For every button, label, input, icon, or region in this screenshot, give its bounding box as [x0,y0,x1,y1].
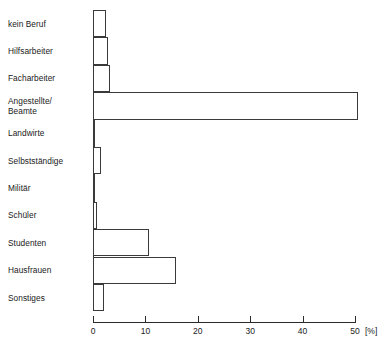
x-tick-label-20: 20 [193,326,202,336]
x-axis-unit-label: [%] [365,326,377,336]
x-tick-10 [145,316,146,323]
x-axis-line [93,322,355,323]
category-label-landwirte: Landwirte [8,120,88,147]
bar-hausfrauen [93,257,176,284]
x-tick-label-30: 30 [245,326,254,336]
x-tick-50 [355,316,356,323]
bar-militaer [93,174,95,201]
x-tick-label-50: 50 [350,326,359,336]
x-tick-0 [93,316,94,323]
x-tick-label-40: 40 [298,326,307,336]
bar-landwirte [93,120,95,147]
x-tick-label-0: 0 [91,326,96,336]
plot-area [93,10,378,311]
bar-chart: kein Beruf Hilfsarbeiter Facharbeiter An… [0,0,385,351]
bar-sonstiges [93,284,104,311]
bar-facharbeiter [93,65,110,92]
x-tick-40 [303,316,304,323]
bar-kein-beruf [93,10,106,37]
category-label-kein-beruf: kein Beruf [8,10,88,37]
bar-hilfsarbeiter [93,37,108,64]
bar-studenten [93,229,149,256]
x-tick-label-10: 10 [141,326,150,336]
category-label-facharbeiter: Facharbeiter [8,65,88,92]
category-label-schueler: Schüler [8,202,88,229]
x-tick-20 [198,316,199,323]
category-label-studenten: Studenten [8,229,88,256]
bar-schueler [93,202,97,229]
bar-angestellte-beamte [93,92,358,119]
category-label-selbststaendige: Selbstständige [8,147,88,174]
category-label-sonstiges: Sonstiges [8,284,88,311]
bar-selbststaendige [93,147,101,174]
category-label-hausfrauen: Hausfrauen [8,257,88,284]
category-label-angestellte-beamte: Angestellte/ Beamte [8,92,88,119]
x-tick-30 [250,316,251,323]
category-label-hilfsarbeiter: Hilfsarbeiter [8,37,88,64]
category-label-militaer: Militär [8,174,88,201]
x-axis: 0 10 20 30 40 50 [%] [93,311,378,351]
